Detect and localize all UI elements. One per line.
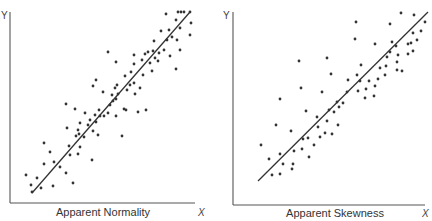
data-point xyxy=(121,135,124,138)
data-point xyxy=(333,111,336,114)
data-point xyxy=(78,133,81,136)
data-point xyxy=(152,50,155,53)
data-point xyxy=(107,112,110,115)
data-point xyxy=(141,59,144,62)
data-point xyxy=(330,73,333,76)
data-point xyxy=(282,163,285,166)
data-point xyxy=(149,62,152,65)
data-point xyxy=(190,22,193,25)
data-point xyxy=(328,109,331,112)
data-point xyxy=(338,106,341,109)
data-point xyxy=(342,102,345,105)
data-point xyxy=(94,114,97,117)
data-point xyxy=(69,154,72,157)
data-point xyxy=(179,49,182,52)
data-point xyxy=(117,93,120,96)
data-point xyxy=(316,116,319,119)
data-point xyxy=(115,115,118,118)
data-point xyxy=(307,137,310,140)
data-point xyxy=(84,112,87,115)
data-point xyxy=(355,21,358,24)
data-point xyxy=(142,74,145,77)
data-point xyxy=(379,67,382,70)
data-point xyxy=(346,91,349,94)
data-point xyxy=(373,95,376,98)
data-point xyxy=(377,78,380,81)
data-point xyxy=(124,75,127,78)
data-point xyxy=(416,39,419,42)
data-point xyxy=(66,127,69,130)
data-point xyxy=(87,124,90,127)
data-point xyxy=(134,93,137,96)
normality-caption: Apparent Normality xyxy=(56,206,151,218)
skewness-panel: Y X Apparent Skewness xyxy=(223,10,429,219)
data-point xyxy=(109,104,112,107)
data-point xyxy=(59,166,62,169)
data-point xyxy=(360,64,363,67)
data-point xyxy=(92,85,95,88)
data-point xyxy=(300,87,303,90)
skewness-x-axis-letter: X xyxy=(421,208,429,219)
data-point xyxy=(171,36,174,39)
data-point xyxy=(374,43,377,46)
data-point xyxy=(176,39,179,42)
data-point xyxy=(397,54,400,57)
data-point xyxy=(298,60,301,63)
data-point xyxy=(301,148,304,151)
data-point xyxy=(137,111,140,114)
data-point xyxy=(92,130,95,133)
data-point xyxy=(337,124,340,127)
data-point xyxy=(157,60,160,63)
data-point xyxy=(103,115,106,118)
data-point xyxy=(317,126,320,129)
data-point xyxy=(77,153,80,156)
data-point xyxy=(95,79,98,82)
data-point xyxy=(72,182,75,185)
data-point xyxy=(147,51,150,54)
data-point xyxy=(357,90,360,93)
data-point xyxy=(102,91,105,94)
skewness-caption: Apparent Skewness xyxy=(286,207,384,219)
data-point xyxy=(302,138,305,141)
data-point xyxy=(112,100,115,103)
data-point xyxy=(321,91,324,94)
data-point xyxy=(130,71,133,74)
data-point xyxy=(166,39,169,42)
data-point xyxy=(326,120,329,123)
data-point xyxy=(43,163,46,166)
skewness-points xyxy=(260,12,427,177)
data-point xyxy=(354,38,357,41)
data-point xyxy=(68,145,71,148)
data-point xyxy=(359,80,362,83)
data-point xyxy=(133,82,136,85)
data-point xyxy=(175,19,178,22)
data-point xyxy=(36,177,39,180)
data-point xyxy=(279,173,282,176)
data-point xyxy=(324,132,327,135)
data-point xyxy=(279,98,282,101)
data-point xyxy=(391,41,394,44)
data-point xyxy=(75,135,78,138)
data-point xyxy=(129,84,132,87)
data-point xyxy=(126,89,129,92)
data-point xyxy=(116,84,119,87)
data-point xyxy=(139,87,142,90)
data-point xyxy=(145,109,148,112)
normality-panel: Y X Apparent Normality xyxy=(1,10,205,218)
data-point xyxy=(175,68,178,71)
data-point xyxy=(189,34,192,37)
data-point xyxy=(183,11,186,14)
data-point xyxy=(368,80,371,83)
data-point xyxy=(374,85,377,88)
data-point xyxy=(268,158,271,161)
data-point xyxy=(99,115,102,118)
data-point xyxy=(292,163,295,166)
data-point xyxy=(83,136,86,139)
data-point xyxy=(65,103,68,106)
data-point xyxy=(412,50,415,53)
data-point xyxy=(290,130,293,133)
data-point xyxy=(305,110,308,113)
data-point xyxy=(407,53,410,56)
data-point xyxy=(384,74,387,77)
data-point xyxy=(313,144,316,147)
